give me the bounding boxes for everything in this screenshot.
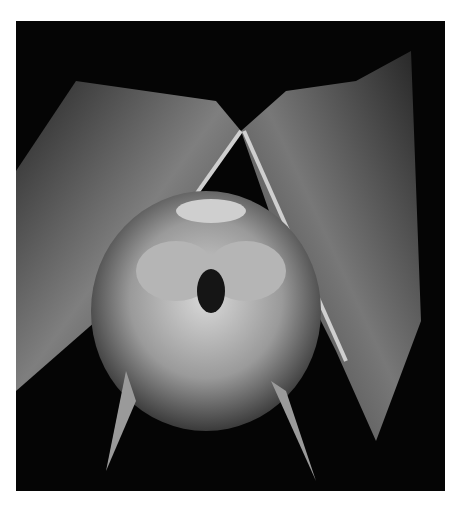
bat-illustration <box>16 21 445 491</box>
bat-photo <box>16 21 445 491</box>
mouth <box>197 269 225 313</box>
